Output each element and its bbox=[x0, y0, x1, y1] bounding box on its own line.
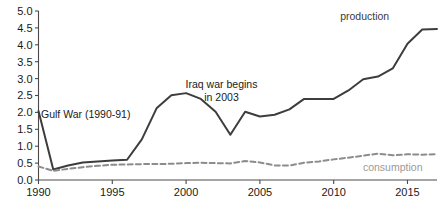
y-tick-label: 1.0 bbox=[17, 140, 32, 152]
x-tick-label: 2015 bbox=[395, 186, 419, 198]
annotation-gulf-war: Gulf War (1990-91) bbox=[41, 108, 130, 120]
y-tick-label: 5.0 bbox=[17, 5, 32, 17]
y-tick-label: 0.0 bbox=[17, 174, 32, 186]
oil-production-consumption-chart: 0.00.51.01.52.02.53.03.54.04.55.01990199… bbox=[0, 0, 444, 209]
y-tick-label: 2.5 bbox=[17, 89, 32, 101]
x-tick-label: 1995 bbox=[100, 186, 124, 198]
annotation-line: Iraq war begins bbox=[186, 78, 258, 90]
y-tick-label: 0.5 bbox=[17, 157, 32, 169]
x-tick-label: 1990 bbox=[26, 186, 50, 198]
x-tick-label: 2000 bbox=[174, 186, 198, 198]
annotation-line: in 2003 bbox=[204, 91, 239, 103]
x-tick-label: 2010 bbox=[321, 186, 345, 198]
annotation-line: Gulf War (1990-91) bbox=[41, 108, 130, 120]
x-tick-label: 2005 bbox=[248, 186, 272, 198]
series-label-production: production bbox=[340, 10, 389, 22]
y-tick-label: 3.5 bbox=[17, 56, 32, 68]
y-tick-label: 1.5 bbox=[17, 123, 32, 135]
annotation-iraq-war: Iraq war beginsin 2003 bbox=[186, 78, 258, 103]
y-tick-label: 3.0 bbox=[17, 73, 32, 85]
chart-canvas: 0.00.51.01.52.02.53.03.54.04.55.01990199… bbox=[0, 0, 444, 209]
series-label-consumption: consumption bbox=[363, 161, 423, 173]
y-tick-label: 2.0 bbox=[17, 106, 32, 118]
y-tick-label: 4.0 bbox=[17, 39, 32, 51]
y-tick-label: 4.5 bbox=[17, 22, 32, 34]
